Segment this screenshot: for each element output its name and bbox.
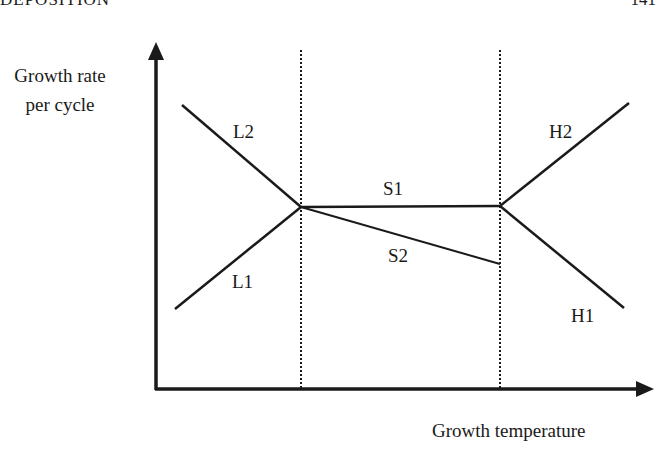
label-S2: S2 bbox=[388, 246, 408, 265]
curve-S1 bbox=[301, 206, 500, 207]
x-axis-label: Growth temperature bbox=[432, 420, 586, 442]
x-axis-arrow-icon bbox=[636, 381, 654, 397]
label-L2: L2 bbox=[233, 122, 254, 141]
label-H2: H2 bbox=[549, 122, 572, 141]
curve-H2 bbox=[500, 103, 629, 206]
diagram-canvas bbox=[0, 0, 662, 464]
label-L1: L1 bbox=[232, 272, 253, 291]
y-axis-arrow-icon bbox=[148, 42, 164, 60]
curve-H1 bbox=[500, 206, 624, 308]
curve-L1 bbox=[175, 207, 301, 309]
label-H1: H1 bbox=[571, 306, 594, 325]
label-S1: S1 bbox=[383, 179, 403, 198]
